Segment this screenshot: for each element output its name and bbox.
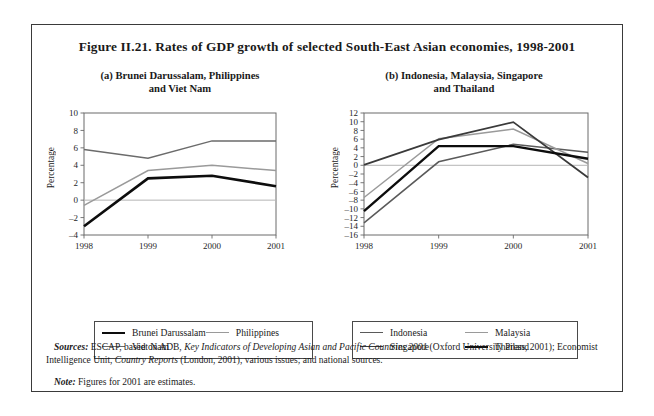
y-tick-label: –8: [348, 195, 359, 205]
panel-a-title-line2: and Viet Nam: [40, 82, 320, 95]
panel-b-chart-svg: –16–14–12–10–8–6–4–202468101219981999200…: [324, 107, 604, 257]
panel-b-title-line2: and Thailand: [324, 82, 604, 95]
y-tick-label: –10: [344, 204, 359, 214]
legend-label: Brunei Darussalam: [132, 327, 206, 338]
panel-b-title-line1: (b) Indonesia, Malaysia, Singapore: [385, 70, 542, 81]
panel-a: (a) Brunei Darussalam, Philippines and V…: [40, 69, 320, 329]
y-tick-label: –6: [348, 187, 359, 197]
note-text: Figures for 2001 are estimates.: [78, 377, 195, 387]
note-label: Note:: [54, 377, 76, 387]
legend-entry: Philippines: [206, 327, 305, 338]
sources-label: Sources:: [54, 342, 88, 352]
panel-a-plot: –4–202468101998199920002001: [40, 107, 320, 257]
figure-notes: Sources: ESCAP, based on ADB, Key Indica…: [46, 341, 610, 390]
sources-italic-1: Key Indicators of Developing Asian and P…: [184, 342, 427, 352]
sources-text-3: (London, 2001), various issues; and nati…: [178, 355, 383, 365]
y-tick-label: 6: [74, 143, 79, 153]
x-tick-label: 2001: [267, 241, 285, 251]
panel-a-chart-svg: –4–202468101998199920002001: [40, 107, 320, 257]
panel-a-title: (a) Brunei Darussalam, Philippines and V…: [40, 69, 320, 95]
legend-line-swatch: [206, 332, 229, 333]
x-tick-label: 1998: [355, 241, 374, 251]
y-tick-label: 4: [74, 160, 79, 170]
panel-a-title-line1: (a) Brunei Darussalam, Philippines: [101, 70, 260, 81]
series-line-brunei-darussalam: [84, 176, 276, 227]
y-tick-label: 2: [74, 178, 79, 188]
panel-b-plot: –16–14–12–10–8–6–4–202468101219981999200…: [324, 107, 604, 257]
y-tick-label: 4: [354, 143, 359, 153]
x-tick-label: 1999: [430, 241, 449, 251]
y-tick-label: 8: [354, 126, 359, 136]
legend-entry: Malaysia: [465, 327, 570, 338]
panel-b: (b) Indonesia, Malaysia, Singapore and T…: [324, 69, 604, 329]
estimates-note: Note: Figures for 2001 are estimates.: [46, 376, 610, 389]
legend-entry: Indonesia: [360, 327, 465, 338]
y-tick-label: 6: [354, 134, 359, 144]
y-tick-label: 0: [74, 195, 79, 205]
y-tick-label: –16: [344, 230, 359, 240]
series-line-indonesia: [364, 144, 588, 222]
series-line-thailand: [364, 146, 588, 211]
series-line-viet-nam: [84, 141, 276, 158]
legend-entry: Brunei Darussalam: [102, 327, 206, 338]
y-tick-label: 2: [354, 152, 359, 162]
legend-line-swatch: [465, 332, 488, 333]
y-tick-label: 0: [354, 160, 359, 170]
y-tick-label: –2: [68, 213, 78, 223]
legend-line-swatch: [102, 332, 125, 334]
sources-text-1: ESCAP, based on ADB,: [91, 342, 184, 352]
sources-italic-2: Country Reports: [115, 355, 178, 365]
figure-title: Figure II.21. Rates of GDP growth of sel…: [32, 39, 622, 55]
y-tick-label: 12: [349, 108, 358, 118]
panel-b-title: (b) Indonesia, Malaysia, Singapore and T…: [324, 69, 604, 95]
x-tick-label: 2000: [203, 241, 222, 251]
series-line-singapore: [364, 122, 588, 177]
series-line-malaysia: [364, 129, 588, 197]
y-tick-label: –14: [344, 221, 359, 231]
y-tick-label: 8: [74, 126, 79, 136]
x-tick-label: 1999: [139, 241, 158, 251]
series-line-philippines: [84, 165, 276, 205]
legend-label: Philippines: [236, 327, 279, 338]
figure-frame: Figure II.21. Rates of GDP growth of sel…: [31, 24, 623, 392]
x-tick-label: 2000: [504, 241, 523, 251]
legend-label: Malaysia: [495, 327, 530, 338]
x-tick-label: 2001: [579, 241, 597, 251]
y-tick-label: –4: [68, 230, 79, 240]
legend-line-swatch: [360, 332, 383, 333]
sources-note: Sources: ESCAP, based on ADB, Key Indica…: [46, 341, 610, 367]
y-tick-label: –2: [348, 169, 358, 179]
legend-label: Indonesia: [390, 327, 427, 338]
x-tick-label: 1998: [75, 241, 94, 251]
y-tick-label: –12: [344, 213, 359, 223]
y-tick-label: 10: [349, 117, 359, 127]
y-tick-label: –4: [348, 178, 359, 188]
y-tick-label: 10: [69, 108, 79, 118]
